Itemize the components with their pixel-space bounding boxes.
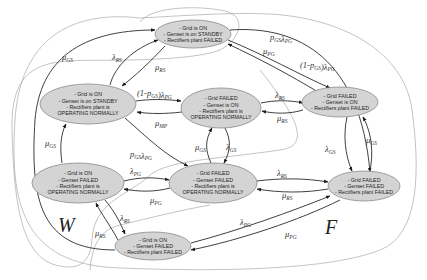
- state-line: - Genset FAILED: [193, 177, 233, 183]
- state-node-s3: - Grid FAILED- Genset is ON- Rectifiers …: [181, 88, 261, 128]
- state-line: - Grid FAILED: [205, 95, 238, 101]
- transition-s3-s4: [261, 101, 303, 103]
- rate-label-s4-s1: μPG: [262, 46, 275, 57]
- transition-s5-s2: [61, 124, 66, 163]
- state-line: - Genset FAILED: [133, 243, 173, 249]
- state-line: - Genset FAILED: [344, 183, 384, 189]
- labels-layer: WFλRSμRSpGSλPG(1-pGS)λPGμPG(1-pGS)λPGμMP…: [44, 32, 377, 240]
- transition-s4-s7: [345, 117, 352, 171]
- state-line: - Grid is ON: [64, 170, 92, 176]
- transition-s6-s5: [124, 188, 170, 191]
- state-line: - Rectifiers plant is: [66, 104, 110, 110]
- state-diagram: - Grid is ON- Genset is on STANDBY- Rect…: [0, 0, 427, 280]
- rate-label-s5-s2: μGS: [44, 138, 56, 149]
- state-line: - Grid is ON: [179, 25, 207, 31]
- rate-label-s4-s3: μRS: [276, 113, 288, 124]
- rate-label-s2-s3: (1-pGS)λPG: [137, 88, 172, 100]
- transition-s5-s6: [124, 178, 169, 181]
- state-line: - Genset is on STANDBY: [163, 31, 223, 37]
- rate-label-s6-s5: μPG: [149, 195, 162, 206]
- rate-label-s5-s6: λPG: [129, 166, 141, 177]
- region-label-w: W: [58, 214, 77, 236]
- transition-s2-s3: [136, 100, 181, 102]
- region-label-f: F: [324, 216, 338, 238]
- rate-label-s1-s4: (1-pGS)λPG: [300, 60, 335, 72]
- state-line: - Grid FAILED: [324, 93, 357, 99]
- state-node-s1: - Grid is ON- Genset is on STANDBY- Rect…: [155, 20, 231, 48]
- state-line: - Rectifiers plant is: [199, 108, 243, 114]
- rate-label-s6-s3: μGS: [194, 142, 206, 153]
- state-line: - Grid is ON: [139, 237, 167, 243]
- transition-s6-s3: [207, 128, 212, 163]
- transition-s6-s7: [257, 179, 328, 182]
- state-node-s8: - Grid is ON- Genset FAILED- Rectifiers …: [115, 232, 191, 260]
- transition-s4-s3: [262, 110, 303, 113]
- state-node-s6: - Grid FAILED- Genset FAILED- Rectifiers…: [169, 163, 257, 203]
- state-line: - Genset FAILED: [58, 177, 98, 183]
- state-line: OPERATING NORMALLY: [47, 189, 108, 195]
- state-line: - Grid is ON: [74, 91, 102, 97]
- state-node-s7: - Grid FAILED- Genset FAILED- Rectifiers…: [328, 171, 400, 201]
- rate-label-s7-s8: μPG: [284, 229, 297, 240]
- state-line: - Rectifiers plant is: [56, 183, 100, 189]
- rate-label-s3-s6: λGS: [225, 142, 237, 153]
- rate-label-s8-s5: μRS: [94, 228, 106, 239]
- state-node-s2: - Grid is ON- Genset is on STANDBY- Rect…: [40, 84, 136, 124]
- rate-label-s1-s2: μRS: [154, 62, 166, 73]
- rate-label-s6-s7: λRS: [276, 168, 287, 179]
- state-line: OPERATING NORMALLY: [190, 114, 251, 120]
- state-line: - Genset is ON: [322, 99, 357, 105]
- rate-label-s1-s7: pGSλPG: [269, 32, 292, 44]
- rate-label-s7-s4: μGS: [365, 135, 377, 146]
- state-node-s4: - Grid FAILED- Genset is ON- Rectifiers …: [302, 87, 378, 117]
- rate-label-s2-s6: pGSλPG: [129, 149, 152, 161]
- region-w-outline: [12, 8, 298, 267]
- rate-label-s2-s1: λRS: [111, 52, 122, 63]
- transition-s2-s1: [110, 40, 158, 85]
- state-line: - Rectifiers plant FAILED: [311, 105, 369, 111]
- rate-label-s8-s7: λPG: [239, 217, 251, 228]
- transition-s7-s8: [191, 200, 340, 250]
- state-line: - Grid FAILED: [348, 177, 381, 183]
- state-line: - Rectifiers plant FAILED: [164, 37, 222, 43]
- rate-label-s3-s4: λRS: [274, 90, 285, 101]
- state-line: - Genset is ON: [203, 102, 238, 108]
- rate-label-s5-s8: λRS: [119, 213, 130, 224]
- state-line: - Rectifiers plant FAILED: [124, 249, 182, 255]
- state-line: - Rectifiers plant FAILED: [335, 189, 393, 195]
- rate-label-s3-s2: μMP: [154, 118, 168, 129]
- state-line: OPERATING NORMALLY: [182, 189, 243, 195]
- state-line: - Rectifiers plant is: [191, 183, 235, 189]
- transition-s7-s6: [257, 189, 328, 192]
- state-line: - Grid FAILED: [197, 170, 230, 176]
- state-line: OPERATING NORMALLY: [57, 110, 118, 116]
- transition-s3-s2: [137, 112, 182, 114]
- state-node-s5: - Grid is ON- Genset FAILED- Rectifiers …: [32, 163, 124, 203]
- rate-label-s4-s7: λGS: [324, 144, 336, 155]
- state-line: - Genset is on STANDBY: [58, 98, 118, 104]
